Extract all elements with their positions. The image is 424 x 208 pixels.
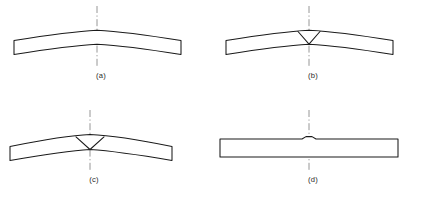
panel-a: (a)	[14, 6, 181, 80]
panel-a-label: (a)	[96, 71, 106, 80]
panel-d: (d)	[220, 110, 398, 184]
beam-diagram-svg: (a) (b) (c) (d)	[0, 0, 424, 208]
panel-b-label: (b)	[308, 71, 318, 80]
panel-d-beam-outline	[220, 137, 398, 157]
panel-b: (b)	[226, 6, 393, 80]
panel-c: (c)	[10, 110, 172, 184]
figure-container: (a) (b) (c) (d)	[0, 0, 424, 208]
panel-c-label: (c)	[89, 175, 99, 184]
panel-a-beam-outline	[14, 30, 181, 54]
panel-d-label: (d)	[308, 175, 318, 184]
